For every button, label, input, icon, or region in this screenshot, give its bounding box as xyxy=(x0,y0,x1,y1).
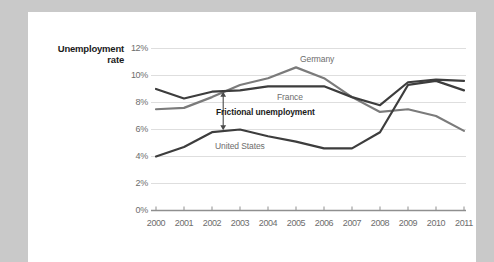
annotation-frictional-unemployment: Frictional unemployment xyxy=(216,107,315,117)
series-label-united-states: United States xyxy=(215,141,265,151)
series-label-germany: Germany xyxy=(300,54,334,64)
series-label-france: France xyxy=(277,92,303,102)
x-axis-line xyxy=(151,207,466,211)
series-line-germany xyxy=(156,67,464,130)
series-line-united-states xyxy=(156,81,464,157)
